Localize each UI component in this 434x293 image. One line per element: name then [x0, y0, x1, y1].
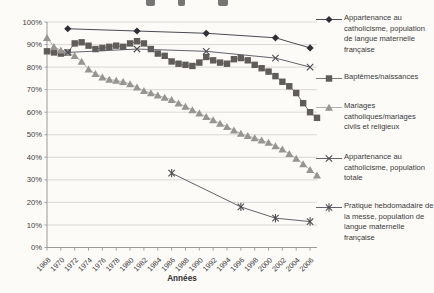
- legend-label: Appartenance au catholicisme, population…: [344, 152, 434, 184]
- legend-label: Appartenance au catholicisme, population…: [344, 13, 434, 55]
- y-axis-tick-label: 60%: [27, 108, 42, 117]
- x-axis-tick-label: 2006: [298, 256, 316, 274]
- y-axis-tick-label: 70%: [27, 85, 42, 94]
- y-axis-tick-label: 20%: [27, 198, 42, 207]
- y-axis-tick-label: 0%: [31, 243, 42, 252]
- y-axis-tick-label: 90%: [27, 40, 42, 49]
- legend-item-3: Mariages catholiques/mariages civils et …: [316, 101, 434, 133]
- y-axis-tick-label: 100%: [23, 18, 43, 27]
- chart-figure: 0%10%20%30%40%50%60%70%80%90%100%1968197…: [0, 0, 434, 293]
- legend-item-5: Pratique hebdomadaire de la messe, popul…: [316, 201, 434, 243]
- legend-item-4: Appartenance au catholicisme, population…: [316, 152, 434, 184]
- star-marker-icon: [316, 202, 342, 213]
- legend-item-2: Baptêmes/naissances: [316, 72, 434, 84]
- y-axis-tick-label: 80%: [27, 63, 42, 72]
- x-axis-title: Années: [167, 274, 197, 283]
- x-marker-icon: [316, 153, 342, 164]
- legend-label: Mariages catholiques/mariages civils et …: [344, 101, 434, 133]
- legend-item-1: Appartenance au catholicisme, population…: [316, 13, 434, 55]
- y-axis-tick-label: 30%: [27, 175, 42, 184]
- y-axis-tick-label: 50%: [27, 130, 42, 139]
- triangle-marker-icon: [316, 102, 342, 113]
- legend-label: Pratique hebdomadaire de la messe, popul…: [344, 201, 434, 243]
- square-marker-icon: [316, 73, 342, 84]
- chart-legend: Appartenance au catholicisme, population…: [316, 0, 434, 293]
- diamond-marker-icon: [316, 14, 342, 25]
- legend-label: Baptêmes/naissances: [344, 72, 434, 83]
- y-axis-tick-label: 10%: [27, 221, 42, 230]
- y-axis-tick-label: 40%: [27, 153, 42, 162]
- series-star: [168, 169, 313, 226]
